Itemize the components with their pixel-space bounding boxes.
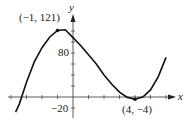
x-axis-label: x <box>177 90 183 102</box>
min-point-marker <box>133 97 137 101</box>
min-point-label: (4, −4) <box>122 103 152 116</box>
y-axis-label: y <box>68 1 74 13</box>
y-axis-arrow-icon <box>71 14 76 22</box>
tick-label-80: 80 <box>58 46 70 58</box>
cubic-graph: y x 80 −20 (−1, 121) (4, −4) <box>0 0 188 122</box>
x-axis-arrow-icon <box>168 95 176 100</box>
tick-label-neg20: −20 <box>51 102 69 114</box>
cubic-curve <box>16 30 166 112</box>
max-point-marker <box>56 29 60 33</box>
max-point-label: (−1, 121) <box>19 11 60 24</box>
